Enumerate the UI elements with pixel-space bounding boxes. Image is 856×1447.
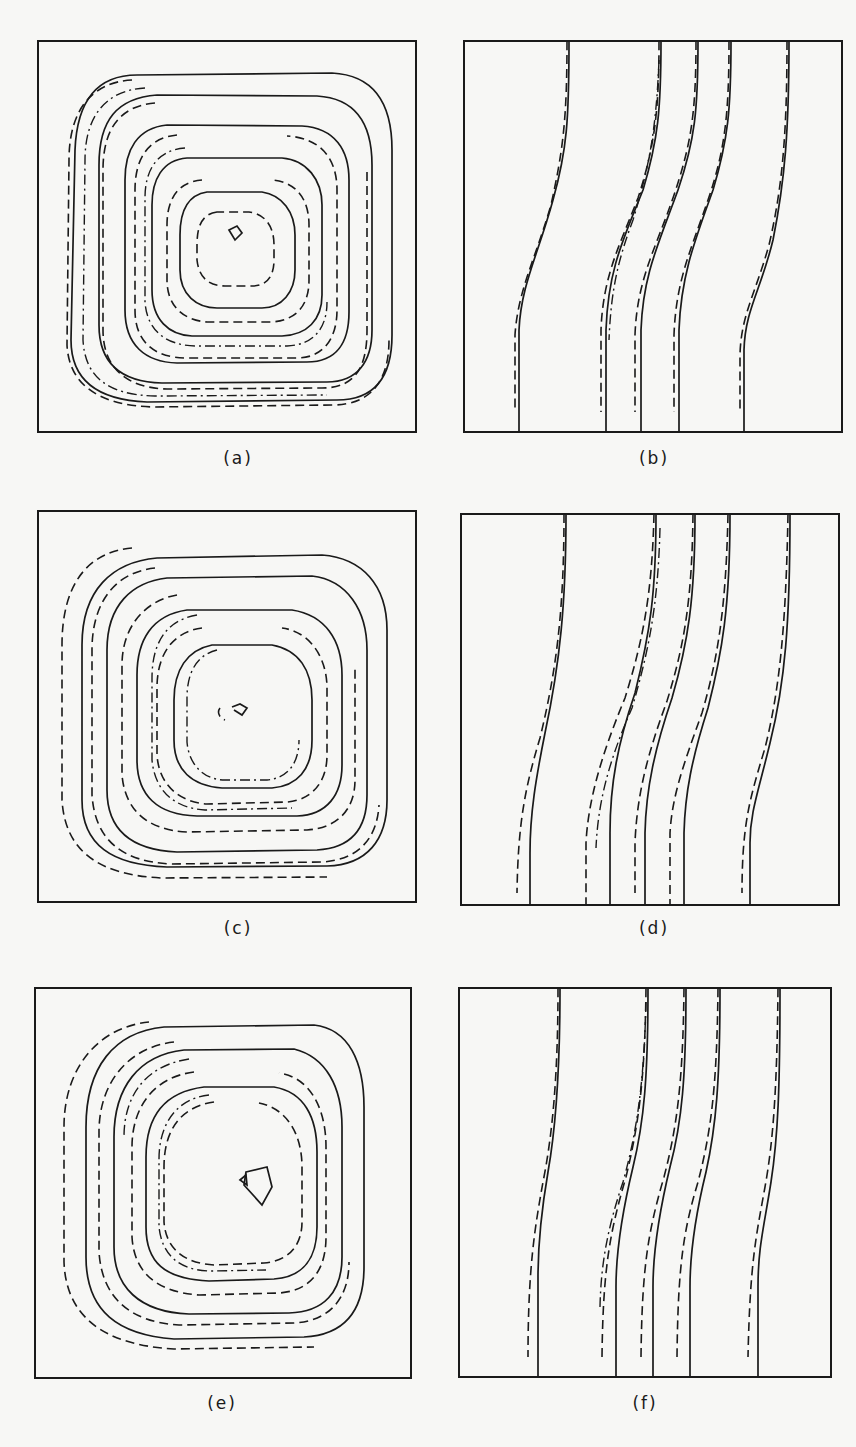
panel-f-plot bbox=[458, 987, 832, 1378]
figure: (a) (b) bbox=[0, 0, 856, 1447]
panel-b-label: (b) bbox=[614, 448, 694, 468]
panel-c-label: (c) bbox=[198, 918, 278, 938]
panel-a-plot bbox=[37, 40, 417, 433]
panel-e-label: (e) bbox=[182, 1393, 262, 1413]
panel-a-label: (a) bbox=[198, 448, 278, 468]
panel-f-label: (f) bbox=[605, 1393, 685, 1413]
panel-d-plot bbox=[460, 513, 840, 906]
panel-d-label: (d) bbox=[614, 918, 694, 938]
panel-c-plot bbox=[37, 510, 417, 903]
panel-b-plot bbox=[463, 40, 843, 433]
panel-e-plot bbox=[34, 987, 412, 1379]
